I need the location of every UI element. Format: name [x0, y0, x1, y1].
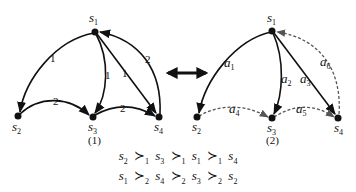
edge-label-a5: a5	[296, 101, 307, 118]
edge-label-a1: a1	[224, 55, 235, 72]
edge-label-a6: a6	[320, 54, 331, 71]
caption-2: (2)	[266, 134, 279, 147]
label-s4: s4	[334, 120, 343, 137]
weight-s1-s2: 1	[50, 52, 56, 64]
node-s1	[269, 28, 276, 35]
preference-agent-1: s2 ≻1 s3 ≻1 s1 ≻1 s4	[0, 148, 356, 166]
label-s2: s2	[12, 119, 21, 136]
label-s4: s4	[154, 119, 163, 136]
weight-s3-s4: 2	[120, 102, 126, 114]
node-s1	[92, 29, 99, 36]
graph-1: 1 1 1 2 2 2 s1 s2 s3 s4 (1)	[12, 10, 163, 147]
caption-1: (1)	[88, 134, 101, 147]
edge-label-a2: a2	[281, 71, 292, 88]
label-s1: s1	[267, 10, 276, 27]
preference-agent-2: s1 ≻2 s4 ≻2 s3 ≻2 s2	[0, 168, 356, 186]
label-s2: s2	[192, 119, 201, 136]
label-s1: s1	[89, 10, 98, 27]
edge-label-a4: a4	[229, 101, 240, 118]
graph-2: a1 a2 a3 a6 a4 a5 s1 s2 s3 s4 (2)	[192, 10, 343, 147]
weight-s1-s4: 1	[122, 67, 128, 79]
weight-s1-s3: 1	[105, 69, 111, 81]
weight-s4-s1: 2	[145, 53, 151, 65]
edge-label-a3: a3	[300, 71, 311, 88]
weight-s2-s3: 2	[53, 95, 59, 107]
